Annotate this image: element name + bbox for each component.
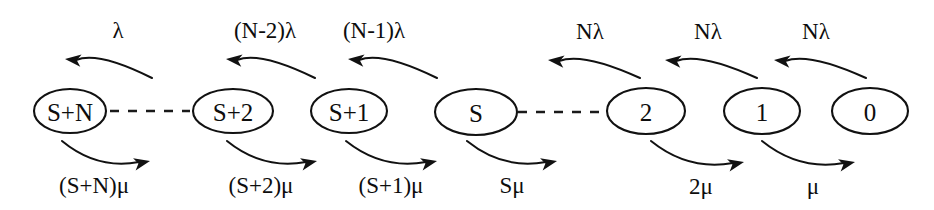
rate-label-mu-1: μ [807,174,819,199]
lower-transition-arrow [62,141,139,164]
state-label-zero: 0 [864,99,877,126]
upper-transition-arrow [359,58,437,78]
state-node-s[interactable]: S [435,89,517,135]
state-label-s-plus-n: S+N [47,99,93,126]
state-node-two[interactable]: 2 [607,88,685,134]
state-node-s-plus-2[interactable]: S+2 [193,89,273,133]
rate-label-lambda-n-b: Nλ [694,19,723,44]
state-label-s: S [469,100,483,127]
rate-label-lambda-n-c: Nλ [802,19,831,44]
lower-transition-arrow-layer [62,141,856,171]
state-label-s-plus-1: S+1 [329,99,370,126]
upper-transition-arrow [676,59,757,78]
rate-label-mu-s-plus-2: (S+2)μ [229,173,294,198]
state-node-s-plus-1[interactable]: S+1 [311,89,387,133]
diagram-canvas: S+NS+2S+1S210 λ(N-2)λ(N-1)λNλNλNλ(S+N)μ(… [0,0,934,210]
upper-transition-arrow [559,59,640,78]
state-node-one[interactable]: 1 [724,88,800,134]
upper-transition-arrow [237,58,315,78]
rate-label-lambda-1: λ [112,18,124,43]
state-label-s-plus-2: S+2 [213,99,254,126]
state-label-one: 1 [756,99,769,126]
upper-transition-arrow [785,59,866,78]
lower-transition-arrow [227,141,306,164]
rate-label-mu-s: Sμ [499,173,524,198]
state-node-zero[interactable]: 0 [832,88,908,134]
rate-label-mu-s-plus-n: (S+N)μ [59,173,129,198]
upper-transition-arrow-layer [64,53,866,78]
rate-label-lambda-n-a: Nλ [576,19,605,44]
state-label-two: 2 [640,99,653,126]
upper-transition-arrow [76,58,152,78]
lower-transition-arrow [762,141,844,165]
lower-transition-arrow [651,141,733,165]
rate-label-lambda-n-2: (N-2)λ [234,18,297,43]
lower-transition-arrow [467,141,546,164]
lower-transition-arrow [346,141,426,164]
state-node-s-plus-n[interactable]: S+N [34,89,106,133]
rate-label-mu-2: 2μ [689,174,713,199]
rate-label-mu-s-plus-1: (S+1)μ [359,173,424,198]
rate-label-lambda-n-1: (N-1)λ [343,18,406,43]
state-transition-diagram: S+NS+2S+1S210 λ(N-2)λ(N-1)λNλNλNλ(S+N)μ(… [0,0,934,210]
